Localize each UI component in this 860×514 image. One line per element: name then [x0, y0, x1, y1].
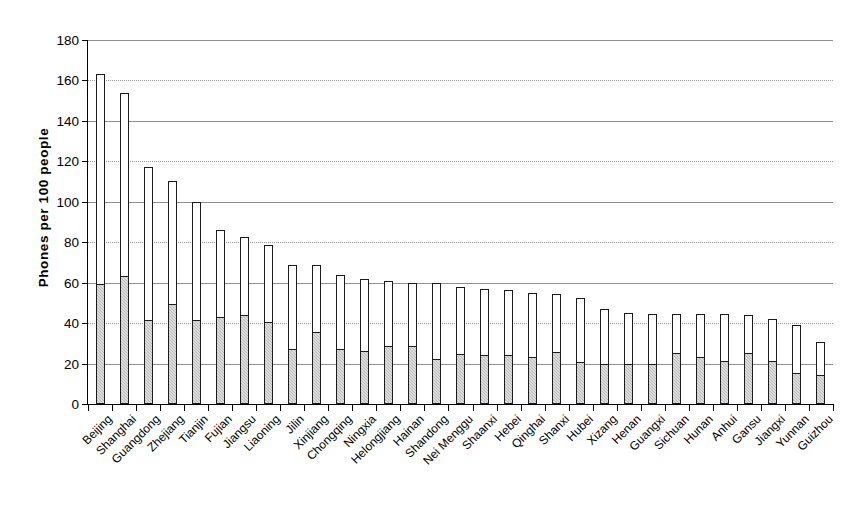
- bar: [384, 281, 393, 404]
- bar: [168, 181, 177, 404]
- bar: [768, 319, 777, 404]
- x-tick-mark: [593, 404, 594, 411]
- x-tick-mark: [737, 404, 738, 411]
- bar: [288, 265, 297, 404]
- x-tick-mark: [448, 404, 449, 411]
- bar: [192, 202, 201, 404]
- x-tick-mark: [713, 404, 714, 411]
- gridline: [88, 161, 833, 162]
- x-tick-mark: [569, 404, 570, 411]
- y-tick-mark: [82, 283, 88, 284]
- x-tick-mark: [761, 404, 762, 411]
- x-tick-mark: [833, 404, 834, 411]
- bar-lower-segment: [313, 332, 320, 403]
- bar-lower-segment: [265, 322, 272, 403]
- bar: [528, 293, 537, 404]
- y-tick-mark: [82, 121, 88, 122]
- x-tick-mark: [112, 404, 113, 411]
- x-tick-mark: [160, 404, 161, 411]
- bar: [408, 283, 417, 404]
- bar-lower-segment: [577, 362, 584, 403]
- bar-lower-segment: [745, 353, 752, 403]
- x-tick-mark: [232, 404, 233, 411]
- bar-lower-segment: [697, 357, 704, 404]
- bar-lower-segment: [793, 373, 800, 403]
- y-tick-mark: [82, 202, 88, 203]
- y-tick-mark: [82, 323, 88, 324]
- bar: [648, 314, 657, 404]
- bar-lower-segment: [433, 359, 440, 403]
- bar: [312, 265, 321, 404]
- x-tick-mark: [280, 404, 281, 411]
- bar: [672, 314, 681, 404]
- x-tick-mark: [473, 404, 474, 411]
- y-tick-label: 140: [56, 113, 79, 128]
- bar: [216, 230, 225, 404]
- y-tick-label: 40: [64, 316, 79, 331]
- x-tick-mark: [545, 404, 546, 411]
- bar-lower-segment: [409, 346, 416, 403]
- x-tick-mark: [352, 404, 353, 411]
- x-tick-mark: [617, 404, 618, 411]
- bar-lower-segment: [121, 276, 128, 403]
- bar: [816, 342, 825, 404]
- x-tick-mark: [497, 404, 498, 411]
- x-tick-mark: [208, 404, 209, 411]
- bar: [96, 74, 105, 404]
- y-tick-mark: [82, 242, 88, 243]
- x-tick-mark: [809, 404, 810, 411]
- bar: [504, 290, 513, 404]
- y-tick-label: 120: [56, 154, 79, 169]
- bar-lower-segment: [457, 354, 464, 403]
- gridline: [88, 121, 833, 122]
- bar-chart: Phones per 100 people 020406080100120140…: [0, 0, 860, 514]
- y-tick-mark: [82, 161, 88, 162]
- bar-lower-segment: [673, 353, 680, 403]
- bar: [744, 315, 753, 404]
- bar: [696, 314, 705, 404]
- y-tick-mark: [82, 80, 88, 81]
- x-tick-mark: [304, 404, 305, 411]
- x-tick-mark: [400, 404, 401, 411]
- bar: [264, 245, 273, 404]
- bar-lower-segment: [337, 349, 344, 403]
- y-tick-label: 20: [64, 356, 79, 371]
- bar-lower-segment: [217, 317, 224, 403]
- y-tick-mark: [82, 364, 88, 365]
- x-tick-mark: [88, 404, 89, 411]
- bar: [360, 279, 369, 404]
- y-tick-label: 60: [64, 275, 79, 290]
- y-tick-label: 0: [71, 397, 79, 412]
- bar-lower-segment: [361, 351, 368, 403]
- y-tick-label: 160: [56, 73, 79, 88]
- bar-lower-segment: [481, 355, 488, 403]
- bar: [552, 294, 561, 404]
- bar: [336, 275, 345, 404]
- bar: [432, 283, 441, 404]
- bar-lower-segment: [721, 361, 728, 403]
- bar: [720, 314, 729, 404]
- bar: [576, 298, 585, 404]
- bar-lower-segment: [193, 320, 200, 403]
- x-tick-mark: [665, 404, 666, 411]
- bar: [600, 309, 609, 404]
- bar: [456, 287, 465, 404]
- y-tick-label: 180: [56, 33, 79, 48]
- bar: [792, 325, 801, 404]
- x-tick-mark: [256, 404, 257, 411]
- x-tick-mark: [328, 404, 329, 411]
- x-axis-spine: [87, 404, 834, 405]
- bar-lower-segment: [385, 346, 392, 403]
- bar-lower-segment: [241, 315, 248, 403]
- bar-lower-segment: [649, 364, 656, 403]
- y-tick-label: 80: [64, 235, 79, 250]
- gridline: [88, 80, 833, 81]
- bar-lower-segment: [505, 355, 512, 403]
- bar-lower-segment: [529, 357, 536, 404]
- x-tick-mark: [641, 404, 642, 411]
- x-tick-mark: [521, 404, 522, 411]
- bar-lower-segment: [169, 304, 176, 403]
- bar: [144, 167, 153, 404]
- y-tick-label: 100: [56, 194, 79, 209]
- gridline: [88, 40, 833, 41]
